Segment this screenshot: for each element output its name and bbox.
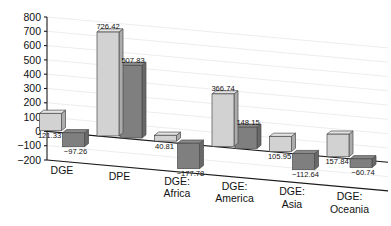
value-label-dark-3: 148.15 — [236, 118, 259, 127]
category-label-5: Oceania — [330, 203, 369, 215]
category-label-2: DGE: — [164, 175, 190, 187]
bar-dark-2-side — [200, 140, 204, 169]
category-label-1: DPE — [109, 170, 131, 182]
category-label-group: DGEDPEDGE:AfricaDGE:AmericaDGE:AsiaDGE:O… — [51, 164, 370, 215]
value-label-light-top-3: 366.74 — [211, 84, 234, 93]
category-label-0: DGE — [51, 164, 74, 176]
bar-dark-2-top — [178, 140, 204, 143]
bar-light-5-side — [349, 131, 353, 157]
y-tick-label: 500 — [23, 54, 41, 66]
bar-light-2-top — [155, 132, 181, 135]
y-tick-label: 600 — [23, 39, 41, 51]
y-tick-label: 100 — [23, 111, 41, 123]
y-tick-label-group: 8007006005004003002001000−100−200 — [17, 11, 41, 166]
bar-light-5-top — [327, 131, 353, 134]
value-label-light-5: 157.84 — [325, 157, 348, 166]
value-label-dark-0: −97.26 — [64, 147, 87, 156]
bar-light-2[interactable] — [155, 135, 177, 141]
category-label-3: America — [215, 192, 254, 204]
bar-dark-3-side — [257, 124, 261, 148]
bar-light-4[interactable] — [270, 136, 292, 151]
category-label-3: DGE: — [222, 180, 248, 192]
bar-dark-0[interactable] — [63, 133, 85, 147]
value-label-light-0: 121.33 — [38, 131, 61, 140]
y-tick-label: 700 — [23, 25, 41, 37]
bar-light-1[interactable] — [97, 32, 119, 136]
y-tick-label: −100 — [17, 139, 41, 151]
bar-light-5[interactable] — [327, 134, 349, 157]
bar-light-1-side — [119, 29, 123, 136]
category-label-4: Asia — [282, 198, 303, 210]
y-tick-label: 300 — [23, 82, 41, 94]
bar-light-0[interactable] — [40, 113, 62, 130]
bar-light-0-top — [40, 110, 66, 113]
bar-dark-2[interactable] — [178, 143, 200, 168]
bar-dark-5[interactable] — [350, 159, 372, 168]
y-tick-label: −200 — [17, 154, 41, 166]
value-label-light-4: 105.95 — [268, 152, 291, 161]
y-tick-label: 400 — [23, 68, 41, 80]
bar-light-4-top — [270, 133, 296, 136]
bar-light-3[interactable] — [212, 94, 234, 146]
chart-svg: 8007006005004003002001000−100−200 121.33… — [0, 0, 391, 226]
value-label-light-2: 40.81 — [155, 142, 174, 151]
value-label-light-top-1: 726.42 — [96, 22, 119, 31]
value-label-dark-4: −112.64 — [292, 170, 319, 179]
bar-dark-5-top — [350, 156, 376, 159]
bar-dark-4-top — [293, 150, 319, 153]
category-label-5: DGE: — [337, 190, 363, 202]
category-label-4: DGE: — [279, 185, 305, 197]
bar-dark-4[interactable] — [293, 154, 315, 170]
y-tick-label: 800 — [23, 11, 41, 23]
bar-dark-1-side — [142, 62, 146, 138]
bar-dark-0-top — [63, 130, 89, 133]
chart-container: 8007006005004003002001000−100−200 121.33… — [0, 0, 391, 226]
value-label-dark-1: 507.83 — [121, 56, 144, 65]
value-label-dark-5: −60.74 — [351, 168, 374, 177]
y-tick-label: 200 — [23, 96, 41, 108]
category-label-2: Africa — [164, 187, 191, 199]
